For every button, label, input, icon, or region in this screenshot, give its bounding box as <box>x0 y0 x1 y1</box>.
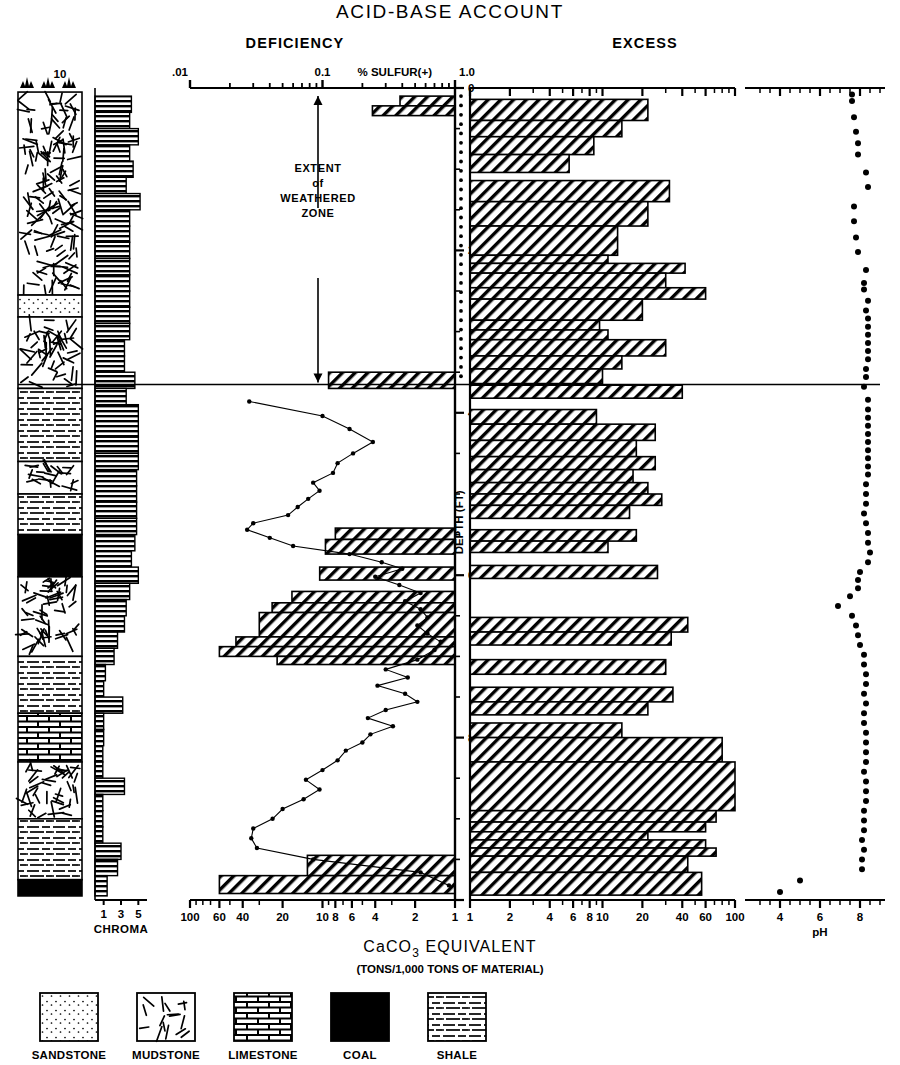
excess-tick-label: 8 <box>586 911 593 923</box>
legend-label: MUDSTONE <box>132 1049 200 1061</box>
excess-bar <box>470 687 673 702</box>
excess-bar <box>470 762 735 811</box>
chroma-bar <box>95 372 135 388</box>
weathered-zone-text: of <box>312 177 324 189</box>
sulfur-point <box>425 631 429 635</box>
ph-tick-label: 8 <box>857 911 864 923</box>
ph-panel: 468pH <box>745 88 885 938</box>
ph-point <box>863 366 869 372</box>
deficiency-bar <box>329 372 455 388</box>
mudstone-tick <box>167 1014 178 1015</box>
ph-point <box>863 491 869 497</box>
chroma-tick-label: 5 <box>135 908 142 920</box>
excess-bar <box>470 470 633 483</box>
weathered-zone-annotation: EXTENTofWEATHEREDZONE <box>18 96 880 384</box>
sulfur-point <box>406 675 410 679</box>
ph-point <box>857 642 863 648</box>
chroma-bar <box>95 129 138 145</box>
sulfur-point <box>384 667 388 671</box>
ph-point <box>861 691 867 697</box>
mudstone-tick <box>54 266 68 267</box>
sulfur-axis-label: % SULFUR(+) <box>358 66 433 78</box>
chroma-bar <box>95 405 138 421</box>
sulfur-point <box>415 657 419 661</box>
weathered-zone-dot <box>459 337 463 341</box>
weathered-zone-dot <box>459 309 463 313</box>
sulfur-point <box>432 648 436 652</box>
legend-swatch-dots <box>40 993 98 1041</box>
ph-point <box>865 439 871 445</box>
deficiency-tick-label: 4 <box>372 911 379 923</box>
excess-bar <box>470 723 622 738</box>
ph-point <box>849 613 855 619</box>
deficiency-tick-label: 60 <box>213 911 226 923</box>
chroma-bar <box>95 502 137 518</box>
sulfur-point <box>403 599 407 603</box>
excess-bar <box>470 856 688 872</box>
chroma-bar <box>95 340 124 356</box>
ph-axis-label: pH <box>812 926 827 938</box>
excess-bar <box>470 565 657 578</box>
sulfur-point <box>331 471 335 475</box>
mudstone-tick <box>73 785 74 792</box>
excess-tick-label: 100 <box>725 911 744 923</box>
sulfur-point <box>311 857 315 861</box>
ph-point <box>865 447 871 453</box>
sulfur-point <box>268 536 272 540</box>
excess-bar <box>470 457 655 470</box>
mudstone-tick <box>29 770 42 771</box>
mudstone-tick <box>63 149 64 162</box>
sulfur-point <box>311 480 315 484</box>
chroma-bar <box>95 648 114 664</box>
ph-point <box>861 652 867 658</box>
sulfur-point <box>373 575 377 579</box>
chroma-bar <box>95 259 130 275</box>
excess-bar <box>470 632 671 645</box>
chroma-bar <box>95 859 118 875</box>
sulfur-point <box>360 740 364 744</box>
ph-point <box>865 530 871 536</box>
ph-point <box>861 808 867 814</box>
ph-point <box>863 307 869 313</box>
excess-bar <box>470 320 600 330</box>
chroma-bar <box>95 112 130 128</box>
sulfur-tick-label: 0.1 <box>315 66 332 78</box>
excess-bar <box>470 822 706 832</box>
ph-point <box>865 472 871 478</box>
ph-point <box>855 577 861 583</box>
ph-point <box>835 603 841 609</box>
chroma-axis-label: CHROMA <box>94 923 149 935</box>
chroma-bar <box>95 811 103 827</box>
excess-bar <box>470 617 688 632</box>
legend-label: LIMESTONE <box>228 1049 298 1061</box>
ph-point <box>851 204 857 210</box>
ph-point <box>857 569 863 575</box>
chroma-bar <box>95 242 130 258</box>
excess-tick-label: 1 <box>467 911 474 923</box>
sulfur-point <box>418 870 422 874</box>
chroma-bar <box>95 876 107 896</box>
ph-point <box>863 374 869 380</box>
lithology-bed-sandstone <box>18 295 82 317</box>
ph-point <box>865 540 871 546</box>
excess-bar <box>470 530 636 541</box>
mudstone-tick <box>16 634 29 635</box>
deficiency-bar <box>307 855 455 875</box>
sulfur-point <box>384 708 388 712</box>
legend-swatch-solid <box>331 993 389 1041</box>
sulfur-point <box>245 528 249 532</box>
ph-point <box>861 710 867 716</box>
lithology-bed-shale <box>18 388 82 461</box>
ph-point <box>861 720 867 726</box>
weathered-zone-dot <box>459 197 463 201</box>
sulfur-point <box>251 826 255 830</box>
chroma-bar <box>95 632 118 648</box>
ph-point <box>861 769 867 775</box>
chroma-bar <box>95 210 130 226</box>
caco3-axis-units: (TONS/1,000 TONS OF MATERIAL) <box>356 963 543 975</box>
ph-point <box>865 332 871 338</box>
weathered-zone-dot <box>459 318 463 322</box>
ph-point <box>855 632 861 638</box>
weathered-zone-dot <box>459 374 463 378</box>
chroma-bar <box>95 323 130 339</box>
